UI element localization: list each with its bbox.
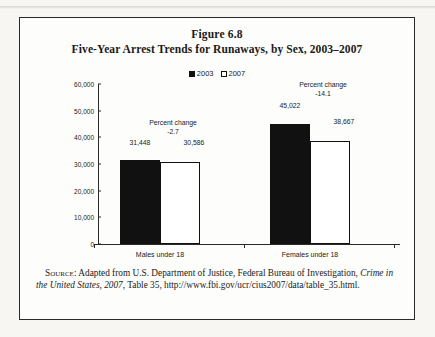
page-background: Figure 6.8 Five-Year Arrest Trends for R… (0, 0, 435, 337)
y-tick-label-50000: 50,000 (74, 107, 94, 114)
x-axis-line (94, 244, 400, 245)
legend-item-2007: 2007 (221, 69, 246, 78)
source-text-before: Adapted from U.S. Department of Justice,… (76, 268, 360, 278)
bar-group-males-under-18: Percent change -2.7 31,448 30,586 Males … (98, 84, 248, 244)
legend-swatch-2003-icon (189, 71, 195, 77)
y-tick-label-40000: 40,000 (74, 134, 94, 141)
category-label-males-under-18: Males under 18 (136, 251, 184, 258)
bar-group-container: Percent change -2.7 31,448 30,586 Males … (98, 84, 398, 244)
plot-area: 0 10,000 20,000 30,000 40,000 50,000 60,… (20, 84, 414, 266)
percent-change-value-males: -2.7 (167, 128, 179, 135)
bar-value-males-2007: 30,586 (168, 139, 220, 146)
chart-legend: 2003 2007 (20, 69, 414, 78)
legend-label-2003: 2003 (197, 69, 214, 78)
figure-number: Figure 6.8 (20, 27, 414, 41)
bar-males-2003[interactable] (120, 160, 160, 244)
legend-swatch-2007-icon (221, 71, 227, 77)
y-tick-label-20000: 20,000 (74, 187, 94, 194)
percent-change-label-males: Percent change (149, 119, 197, 126)
bar-group-females-under-18: Percent change -14.1 45,022 38,667 Femal… (248, 84, 398, 244)
x-tick-mark-end (394, 244, 395, 248)
legend-item-2003: 2003 (189, 69, 214, 78)
source-note: Source: Adapted from U.S. Department of … (36, 268, 400, 291)
x-tick-mark-start (94, 244, 95, 248)
y-tick-label-30000: 30,000 (74, 161, 94, 168)
percent-change-annotation-males: Percent change -2.7 (113, 119, 233, 136)
bar-value-females-2007: 38,667 (318, 118, 370, 125)
bar-value-males-2003: 31,448 (114, 139, 166, 146)
bar-females-2003[interactable] (270, 124, 310, 244)
category-label-females-under-18: Females under 18 (282, 251, 338, 258)
scan-edge-top (0, 6, 435, 9)
y-axis-labels: 0 10,000 20,000 30,000 40,000 50,000 60,… (60, 84, 94, 244)
percent-change-label-females: Percent change (299, 81, 347, 88)
source-prefix: Source: (45, 268, 76, 278)
y-tick-label-60000: 60,000 (74, 81, 94, 88)
x-tick-mark-mid (244, 244, 245, 248)
y-tick-label-10000: 10,000 (74, 214, 94, 221)
figure-container: Figure 6.8 Five-Year Arrest Trends for R… (19, 17, 415, 320)
title-block: Figure 6.8 Five-Year Arrest Trends for R… (20, 27, 414, 57)
source-text-after: , Table 35, http://www.fbi.gov/ucr/cius2… (123, 280, 360, 290)
figure-title: Five-Year Arrest Trends for Runaways, by… (20, 42, 414, 57)
bar-females-2007[interactable] (310, 141, 350, 244)
percent-change-annotation-females: Percent change -14.1 (263, 81, 383, 98)
bar-value-females-2003: 45,022 (264, 102, 316, 109)
bar-males-2007[interactable] (160, 162, 200, 244)
percent-change-value-females: -14.1 (315, 90, 331, 97)
legend-label-2007: 2007 (229, 69, 246, 78)
